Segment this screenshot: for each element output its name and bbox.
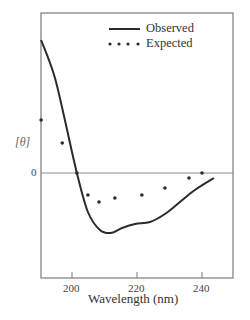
expected-data-point <box>60 141 64 145</box>
legend-observed-label: Observed <box>146 21 194 36</box>
x-axis-label: Wavelength (nm) <box>88 291 178 307</box>
cd-spectrum-chart <box>0 0 250 320</box>
expected-data-point <box>200 171 204 175</box>
y-axis-label: [θ] <box>15 135 30 150</box>
x-tick-label: 240 <box>193 282 210 294</box>
expected-data-point <box>97 200 101 204</box>
legend-expected-label: Expected <box>146 36 193 51</box>
expected-data-point <box>113 196 117 200</box>
expected-data-point <box>86 193 90 197</box>
observed-curve <box>41 40 214 233</box>
expected-data-point <box>140 193 144 197</box>
expected-dots <box>39 118 203 204</box>
expected-data-point <box>187 176 191 180</box>
expected-data-point <box>163 186 167 190</box>
legend-dots-icon <box>108 42 139 45</box>
x-axis-ticks <box>72 272 202 278</box>
expected-data-point <box>75 171 79 175</box>
expected-data-point <box>39 118 43 122</box>
x-tick-label: 200 <box>63 282 80 294</box>
y-zero-label: 0 <box>31 166 37 178</box>
